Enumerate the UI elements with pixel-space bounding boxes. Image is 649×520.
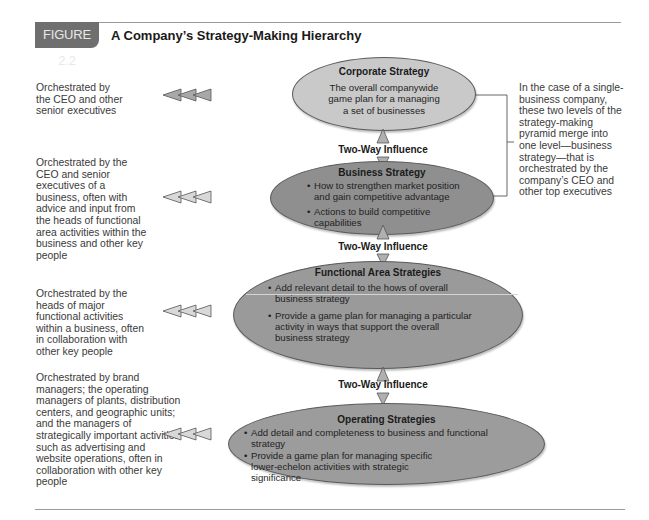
functional-orchestrated-by: Orchestrated by the heads of major funct… [36,288,148,358]
two-way-influence-label: Two-Way Influence [323,241,443,252]
functional-area-strategies-ellipse: Functional Area Strategies Add relevant … [233,261,523,369]
corporate-strategy-ellipse: Corporate Strategy The overall companywi… [292,57,476,131]
operating-strategies-bullets: Add detail and completeness to business … [244,427,524,483]
two-way-influence-label: Two-Way Influence [323,379,443,390]
bottom-rule [35,509,625,510]
two-way-influence-label: Two-Way Influence [323,144,443,155]
triple-left-arrow-icon [163,427,211,441]
triple-left-arrow-icon [163,190,211,204]
business-strategy-title: Business Strategy [271,167,493,178]
triple-left-arrow-icon [163,304,211,318]
up-arrow-icon [376,128,390,144]
business-strategy-bullets: How to strengthen market position and ga… [307,180,469,228]
bracket-note: In the case of a single-business company… [519,82,627,198]
bullet-item: Provide a game plan for managing specifi… [244,450,456,484]
bullet-item: Add detail and completeness to business … [244,427,524,450]
business-orchestrated-by: Orchestrated by the CEO and senior execu… [36,157,150,261]
corporate-orchestrated-by: Orchestrated by the CEO and other senior… [36,82,126,117]
figure-title: A Company’s Strategy-Making Hierarchy [111,28,361,43]
bullet-item: Add relevant detail to the hows of overa… [268,282,472,305]
bullet-item: How to strengthen market position and ga… [307,180,469,203]
up-arrow-icon [376,224,390,240]
figure-label: FIGURE 2.2 [35,22,99,48]
operating-orchestrated-by: Orchestrated by brand managers; the oper… [36,372,181,488]
corporate-strategy-description: The overall companywide game plan for a … [325,82,443,116]
operating-strategies-title: Operating Strategies [229,414,544,425]
triple-left-arrow-icon [163,88,211,102]
corporate-strategy-title: Corporate Strategy [293,66,475,77]
top-rule [35,22,621,23]
functional-area-strategies-title: Functional Area Strategies [234,267,522,278]
functional-area-strategies-bullets: Add relevant detail to the hows of overa… [268,282,472,343]
operating-strategies-ellipse: Operating Strategies Add detail and comp… [228,403,545,485]
bullet-item: Provide a game plan for managing a parti… [268,310,472,344]
